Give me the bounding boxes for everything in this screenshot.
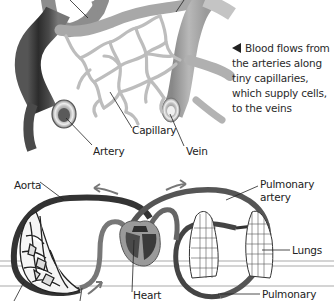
label-vein: Vein: [186, 145, 208, 157]
caption-blood-flow: Blood flows from the arteries along tiny…: [232, 41, 334, 116]
body-capillary-bed: [20, 212, 80, 293]
caption-line-2: the arteries along: [232, 56, 334, 71]
caption-line-1: Blood flows from: [245, 42, 330, 54]
right-lung: [246, 211, 273, 278]
label-artery: Artery: [93, 145, 124, 157]
artery-side-branch: [28, 104, 33, 150]
capillary-bed-leader-1: [14, 282, 24, 301]
caption-line-4: which supply cells,: [232, 86, 334, 101]
label-pulmonary-artery-1: Pulmonary: [260, 178, 314, 190]
label-heart: Heart: [133, 289, 161, 301]
vessel-network: [28, 0, 232, 150]
label-pulmonary-artery-2: artery: [260, 191, 291, 203]
label-lungs: Lungs: [292, 244, 322, 256]
aorta-leader: [40, 182, 64, 200]
label-pulmonary-vein: Pulmonary: [262, 288, 316, 300]
artery-vessel: [28, 12, 58, 110]
caption-line-3: tiny capillaries,: [232, 71, 334, 86]
caption-line-5: to the veins: [232, 101, 334, 116]
label-aorta: Aorta: [14, 179, 41, 191]
heart-illustration: [120, 221, 160, 266]
pointer-left-icon: [232, 43, 241, 53]
artery-leader: [66, 118, 92, 145]
lungs-illustration: [189, 210, 273, 278]
capillary-leader: [110, 92, 132, 128]
label-capillary: Capillary: [132, 124, 176, 136]
